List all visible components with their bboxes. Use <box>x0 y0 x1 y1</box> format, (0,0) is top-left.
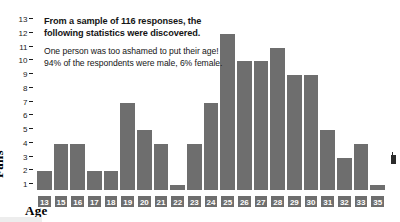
bar-column: 31 <box>319 0 336 190</box>
y-axis-tick-mark <box>29 114 33 115</box>
bar <box>187 144 202 190</box>
y-axis-tick-label: 9 <box>23 71 27 79</box>
y-axis-tick: 4 <box>23 140 33 148</box>
y-axis-tick-mark <box>29 59 33 60</box>
bar <box>354 144 369 190</box>
y-axis-tick: 7 <box>23 99 33 107</box>
bar <box>54 144 69 190</box>
y-axis-tick-mark <box>29 169 33 170</box>
bar <box>304 75 319 190</box>
bar-column: 29 <box>286 0 303 190</box>
bar-column: 32 <box>336 0 353 190</box>
x-axis-tick-label: 22 <box>170 195 185 208</box>
bar-column: 27 <box>253 0 270 190</box>
y-axis-tick-mark <box>29 128 33 129</box>
y-axis-tick: 2 <box>23 167 33 175</box>
x-axis-tick-label: 33 <box>354 195 369 208</box>
x-axis-tick-label: 13 <box>37 195 52 208</box>
y-axis-tick-label: 5 <box>23 126 27 134</box>
y-axis-tick: 6 <box>23 112 33 120</box>
bar <box>237 61 252 190</box>
bar-column: 35 <box>369 0 386 190</box>
bar-column: 28 <box>269 0 286 190</box>
y-axis-tick: 11 <box>19 44 33 52</box>
y-axis-tick: 1 <box>23 181 33 189</box>
annotation-block: From a sample of 116 responses, the foll… <box>44 16 224 69</box>
y-axis: Fans 12345678910111213 <box>0 0 36 222</box>
y-axis-tick-mark <box>29 87 33 88</box>
y-axis-tick-mark <box>29 101 33 102</box>
y-axis-tick: 3 <box>23 154 33 162</box>
bar <box>254 61 269 190</box>
bar-column: 26 <box>236 0 253 190</box>
y-axis-tick: 5 <box>23 126 33 134</box>
bar <box>137 130 152 190</box>
x-axis-tick-label: 17 <box>87 195 102 208</box>
y-axis-tick: 9 <box>23 71 33 79</box>
bar <box>337 158 352 191</box>
x-axis-tick-label: 26 <box>237 195 252 208</box>
bar-chart: Fans 12345678910111213 Age 1315161718192… <box>0 0 400 222</box>
bar <box>270 48 285 191</box>
y-axis-tick: 10 <box>19 57 33 65</box>
bar <box>37 171 52 190</box>
x-axis-tick-label: 21 <box>154 195 169 208</box>
bar <box>70 144 85 190</box>
y-axis-tick: 8 <box>23 85 33 93</box>
x-axis-tick-label: 27 <box>254 195 269 208</box>
x-axis-tick-label: 19 <box>120 195 135 208</box>
y-axis-tick-label: 4 <box>23 140 27 148</box>
y-axis-tick-label: 11 <box>19 44 27 52</box>
cropped-edge-marker <box>391 155 396 164</box>
x-axis-tick-label: 25 <box>220 195 235 208</box>
bar <box>370 185 385 190</box>
bar-column: 30 <box>303 0 320 190</box>
x-axis-tick-label: 29 <box>287 195 302 208</box>
bar <box>287 75 302 190</box>
x-axis-tick-label: 18 <box>104 195 119 208</box>
x-axis-tick-label: 28 <box>270 195 285 208</box>
x-axis-tick-label: 23 <box>187 195 202 208</box>
y-axis-tick-label: 2 <box>23 167 27 175</box>
y-axis-tick-mark <box>29 183 33 184</box>
x-axis-tick-label: 31 <box>320 195 335 208</box>
bar <box>87 171 102 190</box>
bar <box>154 144 169 190</box>
x-axis-tick-label: 30 <box>304 195 319 208</box>
x-axis-tick-label: 16 <box>70 195 85 208</box>
y-axis-tick-label: 6 <box>23 112 27 120</box>
bar <box>320 130 335 190</box>
y-axis-tick-mark <box>29 142 33 143</box>
bar <box>170 185 185 190</box>
y-axis-tick-label: 13 <box>19 16 28 24</box>
bar <box>120 103 135 191</box>
y-axis-title: Fans <box>0 150 7 178</box>
y-axis-tick-mark <box>29 32 33 33</box>
y-axis-tick: 13 <box>19 16 33 24</box>
y-axis-tick-label: 12 <box>19 30 28 38</box>
x-axis-tick-label: 20 <box>137 195 152 208</box>
bar <box>204 103 219 191</box>
y-axis-tick: 12 <box>19 30 33 38</box>
y-axis-tick-label: 7 <box>23 99 27 107</box>
y-axis-tick-label: 3 <box>23 154 27 162</box>
y-axis-tick-mark <box>29 73 33 74</box>
annotation-body: One person was too ashamed to put their … <box>44 46 224 69</box>
y-axis-tick-mark <box>29 18 33 19</box>
y-axis-tick-label: 1 <box>23 181 27 189</box>
x-axis-tick-label: 32 <box>337 195 352 208</box>
bar-column: 33 <box>353 0 370 190</box>
y-axis-tick-mark <box>29 156 33 157</box>
x-axis-tick-label: 24 <box>204 195 219 208</box>
bar <box>104 171 119 190</box>
x-axis-tick-label: 15 <box>54 195 69 208</box>
x-axis-tick-label: 35 <box>370 195 385 208</box>
y-axis-tick-label: 8 <box>23 85 27 93</box>
y-axis-tick-label: 10 <box>19 57 28 65</box>
y-axis-tick-mark <box>29 46 33 47</box>
annotation-headline: From a sample of 116 responses, the foll… <box>44 16 224 39</box>
bottom-edge-artifact <box>0 217 42 222</box>
